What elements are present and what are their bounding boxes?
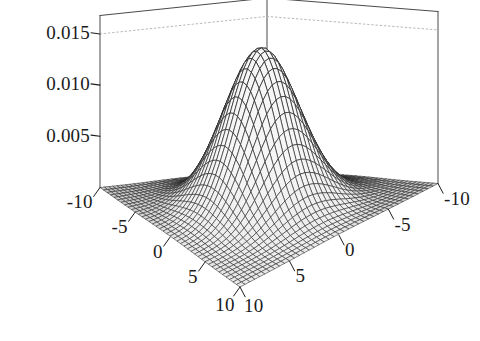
x-tick-label-4: 10 xyxy=(215,295,234,314)
plot-gridlines xyxy=(100,16,438,34)
surface-plot-canvas xyxy=(0,0,480,341)
x-tick-label-3: 5 xyxy=(188,267,198,286)
surface-plot-figure: 0.015 0.010 0.005 -10 -5 0 5 10 -10 -5 0… xyxy=(0,0,480,341)
x-tick-label-1: -5 xyxy=(111,217,127,236)
y-tick-label-2: 0 xyxy=(345,240,355,259)
y-tick-label-4: 10 xyxy=(244,296,263,315)
y-tick-label-1: -5 xyxy=(395,215,411,234)
z-tick-label-2: 0.005 xyxy=(46,126,90,145)
z-tick-label-1: 0.010 xyxy=(46,74,90,93)
x-tick-label-2: 0 xyxy=(153,242,163,261)
z-tick-label-0: 0.015 xyxy=(46,23,90,42)
y-tick-label-0: -10 xyxy=(444,189,470,208)
gaussian-surface-mesh xyxy=(100,48,438,287)
x-tick-label-0: -10 xyxy=(67,192,93,211)
y-tick-label-3: 5 xyxy=(296,266,306,285)
